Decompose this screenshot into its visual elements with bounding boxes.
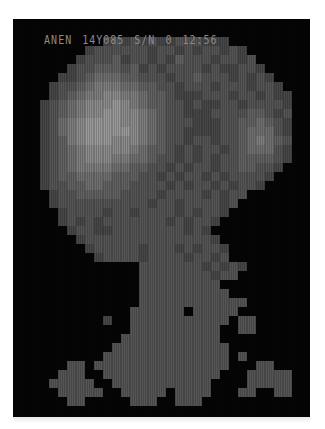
- scan-pixel: [76, 307, 85, 316]
- scan-pixel: [67, 199, 76, 208]
- scan-pixel: [175, 208, 184, 217]
- scan-pixel: [130, 244, 139, 253]
- scan-pixel: [184, 280, 193, 289]
- scan-pixel: [103, 397, 112, 406]
- scan-pixel: [301, 334, 310, 343]
- scan-pixel: [22, 172, 31, 181]
- scan-pixel: [112, 280, 121, 289]
- scan-pixel: [40, 136, 49, 145]
- scan-pixel: [193, 172, 202, 181]
- scan-pixel: [13, 226, 22, 235]
- scan-pixel: [103, 370, 112, 379]
- scan-pixel: [67, 190, 76, 199]
- scan-image-panel: ANEN14Y085S/N012:56: [13, 19, 310, 417]
- scan-pixel: [247, 127, 256, 136]
- scan-pixel: [94, 145, 103, 154]
- scan-pixel: [166, 334, 175, 343]
- scan-pixel: [40, 379, 49, 388]
- scan-pixel: [175, 289, 184, 298]
- scan-pixel: [229, 91, 238, 100]
- scan-pixel: [247, 217, 256, 226]
- scan-pixel: [22, 289, 31, 298]
- scan-pixel: [184, 181, 193, 190]
- scan-pixel: [49, 271, 58, 280]
- scan-pixel: [112, 91, 121, 100]
- scan-pixel: [130, 217, 139, 226]
- scan-pixel: [247, 262, 256, 271]
- scan-pixel: [184, 406, 193, 415]
- scan-pixel: [220, 325, 229, 334]
- scan-pixel: [67, 82, 76, 91]
- header-field-time: 12:56: [182, 34, 217, 47]
- scan-pixel: [85, 64, 94, 73]
- scan-pixel: [247, 289, 256, 298]
- scan-pixel: [157, 307, 166, 316]
- scan-pixel: [184, 217, 193, 226]
- scan-pixel: [301, 37, 310, 46]
- scan-pixel: [130, 361, 139, 370]
- scan-pixel: [85, 91, 94, 100]
- scan-pixel: [130, 82, 139, 91]
- scan-pixel: [58, 199, 67, 208]
- scan-pixel: [58, 289, 67, 298]
- scan-pixel: [157, 280, 166, 289]
- scan-pixel: [247, 352, 256, 361]
- scan-pixel: [238, 145, 247, 154]
- header-field-id: 14Y085: [82, 34, 124, 47]
- scan-pixel: [157, 253, 166, 262]
- scan-pixel: [220, 55, 229, 64]
- scan-pixel: [211, 289, 220, 298]
- scan-pixel: [229, 73, 238, 82]
- scan-pixel: [22, 217, 31, 226]
- scan-pixel: [130, 298, 139, 307]
- scan-pixel: [283, 316, 292, 325]
- scan-pixel: [76, 55, 85, 64]
- scan-pixel: [148, 253, 157, 262]
- scan-pixel: [193, 280, 202, 289]
- scan-pixel: [292, 307, 301, 316]
- scan-pixel: [157, 271, 166, 280]
- scan-pixel: [58, 154, 67, 163]
- scan-pixel: [139, 55, 148, 64]
- scan-pixel: [85, 217, 94, 226]
- scan-pixel: [274, 370, 283, 379]
- scan-pixel: [85, 181, 94, 190]
- scan-pixel: [49, 181, 58, 190]
- scan-pixel: [40, 244, 49, 253]
- scan-pixel: [94, 118, 103, 127]
- scan-pixel: [301, 307, 310, 316]
- scan-pixel: [148, 271, 157, 280]
- scan-pixel: [301, 352, 310, 361]
- scan-pixel: [76, 136, 85, 145]
- scan-pixel: [94, 253, 103, 262]
- scan-pixel: [292, 316, 301, 325]
- scan-pixel: [13, 325, 22, 334]
- scan-pixel: [238, 271, 247, 280]
- scan-pixel: [67, 64, 76, 73]
- scan-pixel: [94, 55, 103, 64]
- scan-pixel: [112, 388, 121, 397]
- scan-pixel: [139, 217, 148, 226]
- scan-pixel: [40, 127, 49, 136]
- scan-pixel: [220, 91, 229, 100]
- scan-pixel: [85, 190, 94, 199]
- scan-pixel: [283, 379, 292, 388]
- scan-pixel: [13, 307, 22, 316]
- scan-pixel: [175, 154, 184, 163]
- scan-pixel: [31, 334, 40, 343]
- scan-pixel: [247, 397, 256, 406]
- scan-pixel: [112, 307, 121, 316]
- scan-pixel: [58, 172, 67, 181]
- scan-pixel: [283, 127, 292, 136]
- scan-pixel: [13, 262, 22, 271]
- scan-pixel: [211, 118, 220, 127]
- scan-pixel: [67, 388, 76, 397]
- scan-pixel: [256, 379, 265, 388]
- scan-pixel: [121, 352, 130, 361]
- scan-pixel: [112, 253, 121, 262]
- scan-pixel: [238, 334, 247, 343]
- scan-pixel: [193, 208, 202, 217]
- scan-pixel: [274, 55, 283, 64]
- scan-pixel: [274, 82, 283, 91]
- scan-pixel: [283, 118, 292, 127]
